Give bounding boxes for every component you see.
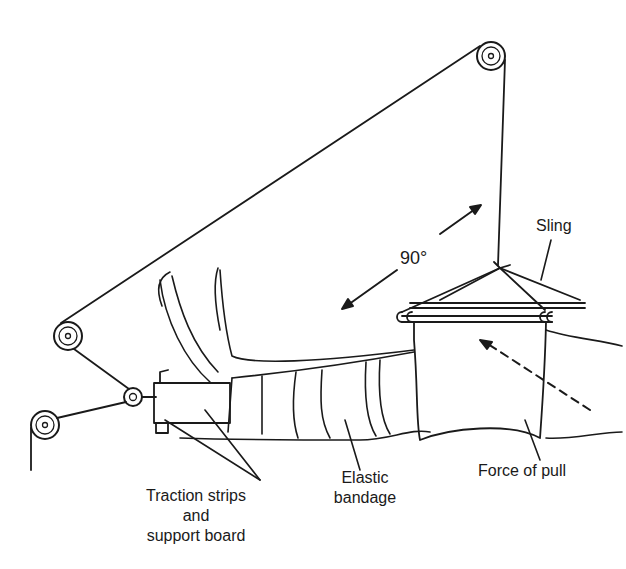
force-arrow: [480, 340, 590, 410]
angle-label: 90°: [400, 248, 427, 268]
traction-diagram: [0, 0, 626, 569]
elastic-bandage-line1: Elastic: [325, 468, 405, 488]
traction-strips-line3: support board: [116, 526, 276, 546]
elastic-bandage-line2: bandage: [325, 488, 405, 508]
elastic-bandage: [228, 352, 414, 438]
leg-outline: [159, 268, 622, 440]
traction-strips-line1: Traction strips: [116, 486, 276, 506]
traction-strips-line2: and: [116, 506, 276, 526]
pulley-top-icon: [477, 42, 505, 70]
traction-strips-label: Traction strips and support board: [116, 486, 276, 546]
traction-rope: [31, 46, 505, 470]
pulley-left-icon: [54, 322, 82, 350]
pulley-bottom-icon: [31, 411, 59, 439]
force-of-pull-label: Force of pull: [478, 461, 566, 481]
leader-lines: [165, 240, 551, 480]
elastic-bandage-label: Elastic bandage: [325, 468, 405, 508]
traction-board: [154, 370, 230, 433]
sling-label: Sling: [536, 216, 572, 236]
spreader-pulley-icon: [124, 388, 142, 406]
sling-frame: [397, 262, 585, 322]
